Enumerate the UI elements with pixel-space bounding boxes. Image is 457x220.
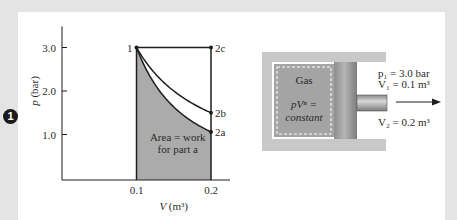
state-label-2b: 2b (215, 107, 227, 119)
x-tick-label: 0.2 (204, 184, 218, 196)
state-label-2a: 2a (215, 126, 226, 138)
piston-rod (357, 95, 387, 111)
area-annotation-line2: for part a (158, 143, 198, 155)
y-tick-label: 1.0 (42, 129, 56, 141)
pv-chart: 1.02.03.0 0.10.2 12a2b2c Area = work for… (28, 26, 230, 213)
y-tick-label: 3.0 (42, 42, 56, 54)
final-volume-label: V₂ = 0.2 m³ (378, 116, 431, 128)
pv-diagram-figure: 1.02.03.0 0.10.2 12a2b2c Area = work for… (0, 0, 457, 220)
state-point-1 (135, 46, 139, 50)
motion-arrow-icon (432, 99, 441, 106)
piston (334, 62, 357, 139)
y-axis-title: p (bar) (28, 76, 41, 107)
y-tick-label: 2.0 (42, 85, 56, 97)
state-point-2b (209, 111, 213, 115)
state-point-2c (209, 46, 213, 50)
piston-cylinder: Gas pVⁿ = constant p₁ = 3.0 bar V₁ = 0.1… (262, 52, 441, 151)
state-label-1: 1 (127, 42, 133, 54)
gas-label: Gas (295, 74, 312, 86)
area-annotation-line1: Area = work (150, 131, 206, 143)
x-tick-label: 0.1 (130, 184, 144, 196)
work-area-shading (137, 48, 212, 181)
polytropic-relation-line1: pVⁿ = (290, 98, 317, 110)
polytropic-relation-line2: constant (285, 111, 323, 123)
state-label-2c: 2c (215, 42, 226, 54)
initial-volume-label: V₁ = 0.1 m³ (378, 78, 431, 90)
state-point-2a (209, 130, 213, 134)
x-axis-title: V (m³) (160, 200, 189, 213)
